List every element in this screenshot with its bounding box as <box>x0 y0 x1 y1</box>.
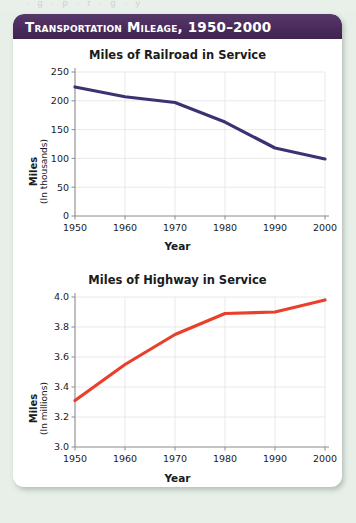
svg-text:3.8: 3.8 <box>54 321 69 332</box>
chart-highway-plot-area: Miles (In millions) 3.03.23.43.63.84.019… <box>13 289 342 471</box>
chart-highway: Miles of Highway in Service Miles (In mi… <box>13 264 342 484</box>
svg-text:1970: 1970 <box>163 222 187 233</box>
figure-title-bar: Transportation Mileage, 1950–2000 <box>13 14 342 39</box>
chart-highway-x-axis-label: Year <box>13 472 342 484</box>
chart-railroad: Miles of Railroad in Service Miles (In t… <box>13 39 342 252</box>
svg-text:1990: 1990 <box>263 453 287 464</box>
chart-railroad-y-axis-label: Miles (In thousands) <box>29 139 49 204</box>
svg-text:1970: 1970 <box>163 453 187 464</box>
svg-text:1960: 1960 <box>113 453 137 464</box>
page-top-bleed-text: · g · p · r · g · y <box>0 0 356 11</box>
svg-text:1980: 1980 <box>213 222 237 233</box>
svg-text:200: 200 <box>51 95 69 106</box>
chart-railroad-svg: 050100150200250195019601970198019902000 <box>13 64 342 239</box>
figure-card: Transportation Mileage, 1950–2000 Miles … <box>13 14 342 487</box>
svg-text:3.6: 3.6 <box>54 351 69 362</box>
svg-text:2000: 2000 <box>313 222 337 233</box>
chart-highway-svg: 3.03.23.43.63.84.01950196019701980199020… <box>13 289 342 471</box>
svg-text:250: 250 <box>51 66 69 77</box>
chart-highway-title: Miles of Highway in Service <box>13 264 342 289</box>
svg-text:0: 0 <box>63 210 69 221</box>
svg-text:2000: 2000 <box>313 453 337 464</box>
svg-text:1980: 1980 <box>213 453 237 464</box>
svg-text:4.0: 4.0 <box>54 291 69 302</box>
svg-text:100: 100 <box>51 153 69 164</box>
svg-text:1950: 1950 <box>63 222 87 233</box>
svg-text:1950: 1950 <box>63 453 87 464</box>
chart-railroad-plot-area: Miles (In thousands) 0501001502002501950… <box>13 64 342 239</box>
svg-text:50: 50 <box>57 182 69 193</box>
figure-title: Transportation Mileage, 1950–2000 <box>25 19 271 35</box>
svg-text:3.2: 3.2 <box>54 411 69 422</box>
svg-text:3.4: 3.4 <box>54 381 69 392</box>
chart-highway-y-axis-label: Miles (In millions) <box>29 382 49 435</box>
chart-railroad-x-axis-label: Year <box>13 240 342 252</box>
svg-text:3.0: 3.0 <box>54 441 69 452</box>
svg-text:1960: 1960 <box>113 222 137 233</box>
svg-text:150: 150 <box>51 124 69 135</box>
chart-railroad-title: Miles of Railroad in Service <box>13 39 342 64</box>
svg-text:1990: 1990 <box>263 222 287 233</box>
